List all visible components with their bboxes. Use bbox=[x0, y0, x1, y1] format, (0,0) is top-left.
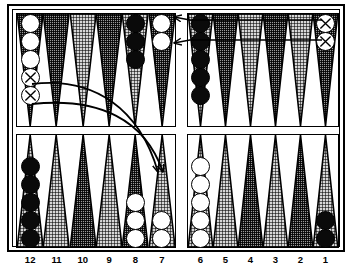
point-6-top[interactable] bbox=[188, 14, 213, 126]
point-7-top[interactable] bbox=[149, 14, 175, 126]
point-triangle-outline bbox=[238, 14, 263, 126]
point-triangle-outline bbox=[149, 135, 175, 247]
point-1-top[interactable] bbox=[313, 14, 338, 126]
point-9-top[interactable] bbox=[96, 14, 122, 126]
point-12-bottom[interactable] bbox=[17, 135, 43, 247]
point-triangle-outline bbox=[149, 14, 175, 126]
point-label-6: 6 bbox=[193, 254, 209, 265]
point-triangle-outline bbox=[70, 135, 96, 247]
point-9-bottom[interactable] bbox=[96, 135, 122, 247]
point-triangle-outline bbox=[17, 14, 43, 126]
point-number-labels: 121110987654321 bbox=[7, 254, 345, 271]
point-triangle-outline bbox=[188, 135, 213, 247]
point-3-bottom[interactable] bbox=[263, 135, 288, 247]
point-5-bottom[interactable] bbox=[213, 135, 238, 247]
point-2-bottom[interactable] bbox=[288, 135, 313, 247]
backgammon-board-frame bbox=[7, 4, 345, 252]
point-6-bottom[interactable] bbox=[188, 135, 213, 247]
point-11-top[interactable] bbox=[43, 14, 69, 126]
point-4-bottom[interactable] bbox=[238, 135, 263, 247]
point-triangle-outline bbox=[43, 135, 69, 247]
quadrant-bottom-left bbox=[16, 134, 176, 248]
point-7-bottom[interactable] bbox=[149, 135, 175, 247]
point-label-2: 2 bbox=[293, 254, 309, 265]
point-5-top[interactable] bbox=[213, 14, 238, 126]
point-triangle-outline bbox=[122, 135, 148, 247]
point-2-top[interactable] bbox=[288, 14, 313, 126]
point-triangle-outline bbox=[213, 135, 238, 247]
point-label-7: 7 bbox=[154, 254, 170, 265]
point-label-5: 5 bbox=[218, 254, 234, 265]
point-label-9: 9 bbox=[101, 254, 117, 265]
point-triangle-outline bbox=[122, 14, 148, 126]
point-triangle-outline bbox=[43, 14, 69, 126]
point-triangle-outline bbox=[96, 14, 122, 126]
point-label-1: 1 bbox=[318, 254, 334, 265]
point-label-11: 11 bbox=[48, 254, 64, 265]
point-label-4: 4 bbox=[243, 254, 259, 265]
point-label-3: 3 bbox=[268, 254, 284, 265]
point-10-bottom[interactable] bbox=[70, 135, 96, 247]
point-3-top[interactable] bbox=[263, 14, 288, 126]
point-12-top[interactable] bbox=[17, 14, 43, 126]
backgammon-board-inner bbox=[12, 9, 340, 247]
point-triangle-outline bbox=[17, 135, 43, 247]
point-label-10: 10 bbox=[75, 254, 91, 265]
point-label-8: 8 bbox=[127, 254, 143, 265]
quadrant-top-left bbox=[16, 13, 176, 127]
point-label-12: 12 bbox=[22, 254, 38, 265]
point-4-top[interactable] bbox=[238, 14, 263, 126]
point-triangle-outline bbox=[263, 14, 288, 126]
point-triangle-outline bbox=[263, 135, 288, 247]
point-triangle-outline bbox=[213, 14, 238, 126]
point-triangle-outline bbox=[313, 14, 338, 126]
point-triangle-outline bbox=[238, 135, 263, 247]
point-10-top[interactable] bbox=[70, 14, 96, 126]
point-triangle-outline bbox=[288, 14, 313, 126]
point-triangle-outline bbox=[188, 14, 213, 126]
point-triangle-outline bbox=[313, 135, 338, 247]
point-8-bottom[interactable] bbox=[122, 135, 148, 247]
point-1-bottom[interactable] bbox=[313, 135, 338, 247]
point-8-top[interactable] bbox=[122, 14, 148, 126]
point-triangle-outline bbox=[96, 135, 122, 247]
board-bar bbox=[176, 13, 187, 248]
quadrant-bottom-right bbox=[187, 134, 339, 248]
quadrant-top-right bbox=[187, 13, 339, 127]
point-triangle-outline bbox=[288, 135, 313, 247]
point-triangle-outline bbox=[70, 14, 96, 126]
point-11-bottom[interactable] bbox=[43, 135, 69, 247]
